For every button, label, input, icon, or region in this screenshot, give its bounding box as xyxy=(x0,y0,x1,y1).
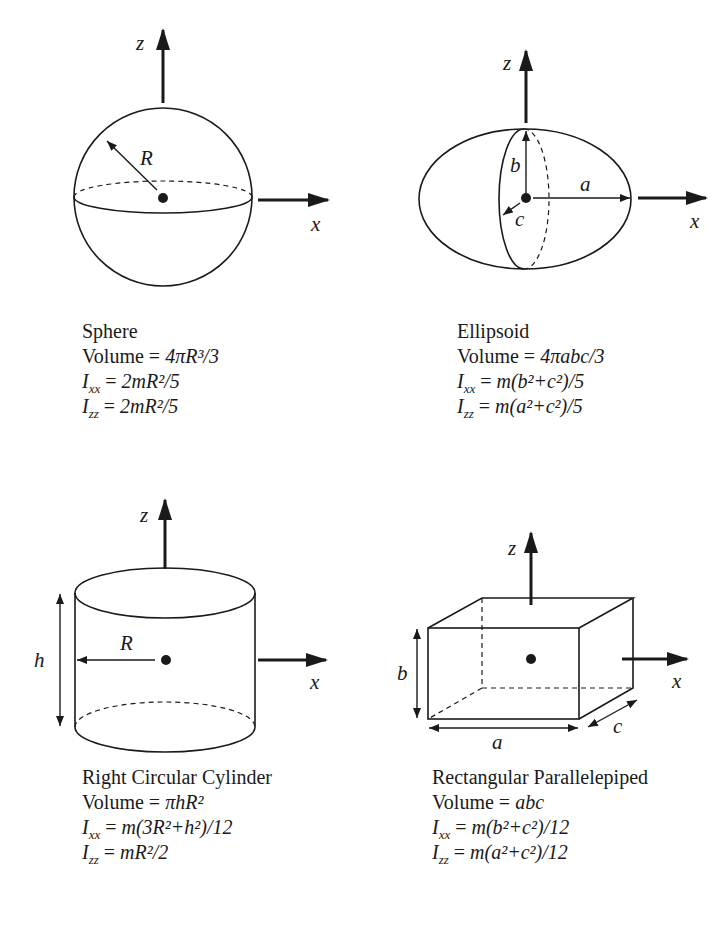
ixx-formula: Ixx = m(3R²+h²)/12 xyxy=(82,815,272,840)
ellipsoid-section-front xyxy=(499,129,524,269)
box-diagram: z b a c x xyxy=(397,533,687,754)
shape-title: Sphere xyxy=(82,319,219,344)
cylinder-diagram: z h R x xyxy=(34,500,326,752)
ixx-formula: Ixx = 2mR²/5 xyxy=(82,369,219,394)
x-axis-label: x xyxy=(309,670,320,694)
ixx-formula: Ixx = m(b²+c²)/5 xyxy=(457,369,605,394)
box-caption: Rectangular Parallelepiped Volume = abc … xyxy=(432,765,648,865)
center-of-mass-dot xyxy=(158,193,168,203)
c-label: c xyxy=(613,714,623,738)
izz-formula: Izz = m(a²+c²)/12 xyxy=(432,840,648,865)
x-axis-label: x xyxy=(671,669,682,693)
h-label: h xyxy=(34,648,45,672)
hidden-edge xyxy=(428,688,482,719)
c-label: c xyxy=(515,207,525,231)
izz-formula: Izz = m(a²+c²)/5 xyxy=(457,394,605,419)
center-of-mass-dot xyxy=(161,655,171,665)
z-axis-label: z xyxy=(139,503,148,527)
ixx-formula: Ixx = m(b²+c²)/12 xyxy=(432,815,648,840)
z-axis-label: z xyxy=(507,536,516,560)
ellipsoid-caption: Ellipsoid Volume = 4πabc/3 Ixx = m(b²+c²… xyxy=(457,319,605,419)
cylinder-bottom-back xyxy=(75,702,255,727)
cylinder-bottom-front xyxy=(75,727,255,752)
volume-formula: Volume = 4πR³/3 xyxy=(82,344,219,369)
x-axis-label: x xyxy=(310,212,321,236)
ellipsoid-diagram: z b a c x xyxy=(419,51,706,269)
center-of-mass-dot xyxy=(521,193,531,203)
cylinder-caption: Right Circular Cylinder Volume = πhR² Ix… xyxy=(82,765,272,865)
sphere-diagram: z R x xyxy=(74,30,328,286)
volume-formula: Volume = πhR² xyxy=(82,790,272,815)
volume-formula: Volume = abc xyxy=(432,790,648,815)
box-front-face xyxy=(428,628,579,719)
b-label: b xyxy=(510,153,521,177)
izz-formula: Izz = mR²/2 xyxy=(82,840,272,865)
shape-title: Rectangular Parallelepiped xyxy=(432,765,648,790)
a-label: a xyxy=(492,730,503,754)
x-axis-label: x xyxy=(689,209,700,233)
radius-label: R xyxy=(139,146,153,170)
shape-title: Ellipsoid xyxy=(457,319,605,344)
z-axis-label: z xyxy=(502,51,511,75)
izz-formula: Izz = 2mR²/5 xyxy=(82,394,219,419)
z-axis-label: z xyxy=(135,31,144,55)
b-label: b xyxy=(397,661,408,685)
shape-title: Right Circular Cylinder xyxy=(82,765,272,790)
a-label: a xyxy=(580,172,591,196)
sphere-caption: Sphere Volume = 4πR³/3 Ixx = 2mR²/5 Izz … xyxy=(82,319,219,419)
cylinder-top xyxy=(75,568,255,618)
radius-label: R xyxy=(119,631,133,655)
volume-formula: Volume = 4πabc/3 xyxy=(457,344,605,369)
center-of-mass-dot xyxy=(526,654,536,664)
